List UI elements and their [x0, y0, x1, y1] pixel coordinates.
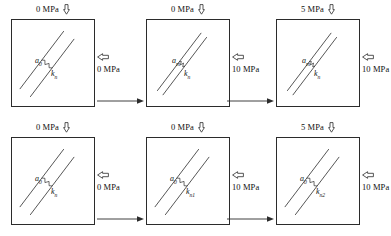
normal-stiffness-label: kn [51, 188, 57, 198]
hollow-down-arrow-icon [198, 1, 205, 19]
vertical-stress-value: 0 MPa [171, 5, 194, 14]
vertical-stress-label-group: 0 MPa [11, 120, 95, 135]
horizontal-stress-label-group: 10 MPa [362, 47, 391, 75]
right-arrow-icon [97, 96, 145, 106]
fracture-with-spring [11, 19, 95, 107]
sequence-arrow-2 [227, 210, 275, 220]
vertical-stress-label-group: 5 MPa [276, 120, 360, 135]
normal-stiffness-label: kn2 [316, 188, 325, 198]
aperture-label: am [172, 57, 180, 67]
fracture-with-spring [276, 137, 360, 225]
hollow-left-arrow-icon [97, 165, 109, 183]
vertical-stress-label-group: 0 MPa [146, 2, 230, 17]
zigzag-spring-icon [177, 178, 187, 186]
aperture-label: a0 [300, 175, 307, 185]
fracture-with-spring [146, 137, 230, 225]
hollow-left-arrow-icon [362, 165, 374, 183]
vertical-stress-value: 5 MPa [301, 5, 324, 14]
hollow-left-arrow-icon [362, 47, 374, 65]
aperture-variation-row: 0 MPaa0kn0 MPa0 MPaamkn10 MPa5 MPaamkn10… [0, 0, 391, 118]
vertical-stress-value: 5 MPa [301, 123, 324, 132]
horizontal-stress-value: 10 MPa [362, 183, 389, 193]
fracture-wall-lower [163, 37, 207, 95]
stiffness-variation-row: 0 MPaa0kn0 MPa0 MPaa0kn110 MPa5 MPaa0kn2… [0, 118, 391, 236]
fracture-with-spring [276, 19, 360, 107]
zigzag-spring-icon [307, 178, 317, 186]
horizontal-stress-value: 0 MPa [97, 65, 120, 75]
right-arrow-icon [97, 214, 145, 224]
vertical-stress-label-group: 5 MPa [276, 2, 360, 17]
hollow-down-arrow-icon [63, 1, 70, 19]
normal-stiffness-label: kn1 [186, 188, 195, 198]
fracture-with-spring [11, 137, 95, 225]
hollow-left-arrow-icon [232, 165, 244, 183]
hollow-left-arrow-icon [97, 47, 109, 65]
aperture-label: a0 [35, 175, 42, 185]
aperture-label: am [302, 57, 310, 67]
zigzag-spring-icon [309, 61, 315, 66]
normal-stiffness-label: kn [314, 70, 320, 80]
normal-stiffness-label: kn [184, 70, 190, 80]
zigzag-spring-icon [179, 61, 185, 66]
horizontal-stress-label-group: 10 MPa [362, 165, 391, 193]
zigzag-spring-icon [42, 60, 52, 68]
horizontal-stress-value: 0 MPa [97, 183, 120, 193]
panel-bottom-3: 5 MPaa0kn210 MPa [265, 118, 391, 236]
sequence-arrow-2 [227, 92, 275, 102]
sequence-arrow-1 [97, 92, 145, 102]
fracture-with-spring [146, 19, 230, 107]
vertical-stress-value: 0 MPa [36, 123, 59, 132]
horizontal-stress-value: 10 MPa [362, 65, 389, 75]
panel-top-3: 5 MPaamkn10 MPa [265, 0, 391, 118]
right-arrow-icon [227, 96, 275, 106]
hollow-down-arrow-icon [198, 119, 205, 137]
aperture-label: a0 [170, 175, 177, 185]
horizontal-stress-value: 10 MPa [232, 183, 259, 193]
normal-stiffness-label: kn [51, 70, 57, 80]
vertical-stress-value: 0 MPa [171, 123, 194, 132]
hollow-down-arrow-icon [63, 119, 70, 137]
vertical-stress-label-group: 0 MPa [11, 2, 95, 17]
sequence-arrow-1 [97, 210, 145, 220]
hollow-down-arrow-icon [328, 119, 335, 137]
horizontal-stress-value: 10 MPa [232, 65, 259, 75]
hollow-left-arrow-icon [232, 47, 244, 65]
aperture-label: a0 [35, 57, 42, 67]
hollow-down-arrow-icon [328, 1, 335, 19]
fracture-wall-lower [293, 37, 337, 95]
zigzag-spring-icon [42, 178, 52, 186]
vertical-stress-value: 0 MPa [36, 5, 59, 14]
right-arrow-icon [227, 214, 275, 224]
vertical-stress-label-group: 0 MPa [146, 120, 230, 135]
